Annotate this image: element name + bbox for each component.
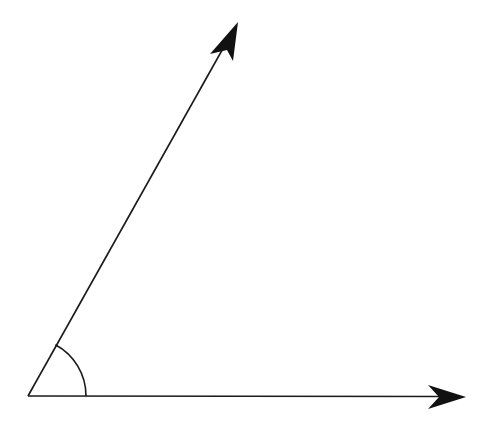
- angle-diagram: [0, 0, 478, 428]
- angle-arc: [55, 345, 86, 396]
- upper-ray-line: [28, 36, 230, 396]
- horizontal-ray-line: [28, 396, 448, 397]
- upper-arrowhead-icon: [210, 22, 238, 61]
